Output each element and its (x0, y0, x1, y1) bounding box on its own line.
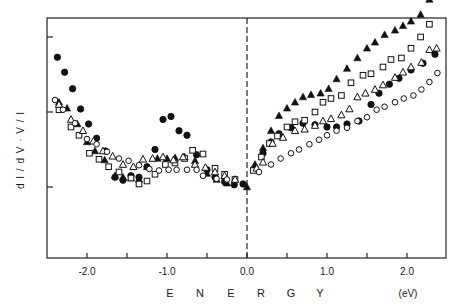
data-point (380, 64, 386, 70)
data-point (283, 104, 290, 111)
data-point (411, 93, 417, 99)
data-point (79, 127, 86, 134)
data-point (426, 0, 433, 2)
data-point (371, 38, 378, 45)
data-point (184, 132, 190, 138)
data-point (60, 107, 66, 113)
data-point (194, 167, 200, 173)
data-point (360, 72, 366, 78)
data-point (418, 34, 424, 40)
x-tick-labels: -2.0 -1.0 0.0 1.0 2.0 (78, 266, 414, 277)
data-point (52, 97, 58, 103)
data-point (427, 21, 433, 27)
data-point (259, 144, 266, 151)
data-point (339, 93, 345, 99)
data-point (324, 132, 330, 138)
data-point (275, 133, 281, 139)
data-point (77, 106, 83, 112)
data-point (144, 178, 150, 184)
data-point (291, 98, 298, 105)
data-point (156, 168, 162, 174)
data-point (433, 44, 440, 51)
data-point (85, 121, 91, 127)
data-point (109, 152, 116, 159)
data-point (392, 99, 398, 105)
data-point (160, 116, 166, 122)
data-point (417, 11, 424, 18)
data-point (302, 117, 308, 123)
data-point (61, 69, 67, 75)
data-point (267, 127, 274, 134)
data-point (72, 120, 78, 126)
x-axis-title: E N E R G Y (eV) (166, 287, 417, 299)
x-title-letter: N (196, 287, 204, 299)
data-point (346, 105, 353, 112)
data-point (288, 150, 294, 156)
data-point (344, 125, 350, 131)
data-point (324, 124, 330, 130)
data-point (96, 156, 102, 162)
data-point (362, 89, 369, 96)
data-point (184, 167, 190, 173)
data-point (312, 109, 318, 115)
scatter-chart: -2.0 -1.0 0.0 1.0 2.0 E N E R G Y (eV) d… (0, 0, 460, 307)
data-point (190, 147, 196, 153)
data-point (407, 63, 414, 70)
data-point (427, 79, 433, 85)
data-point (399, 68, 406, 75)
data-point (268, 162, 274, 168)
data-point (379, 81, 386, 88)
data-point (54, 54, 60, 60)
data-point (152, 146, 158, 152)
data-point (348, 80, 354, 86)
x-tick-label: 1.0 (320, 266, 334, 277)
data-point (368, 101, 374, 107)
data-point (104, 149, 110, 155)
data-point (338, 111, 345, 118)
data-point (168, 113, 174, 119)
data-point (333, 75, 340, 82)
x-title-letter: R (257, 287, 265, 299)
data-point (147, 166, 153, 172)
data-point (386, 81, 392, 87)
x-title-letter: E (166, 287, 173, 299)
y-axis-ticks (47, 37, 53, 187)
data-point (214, 176, 220, 182)
data-point (355, 118, 361, 124)
data-point (69, 86, 75, 92)
data-point (278, 156, 284, 162)
data-point (116, 169, 122, 175)
data-point (381, 31, 388, 38)
data-point (256, 169, 262, 175)
data-point (320, 99, 326, 105)
data-point (128, 175, 134, 181)
data-point (401, 96, 407, 102)
data-point (166, 167, 172, 173)
data-point (176, 128, 182, 134)
data-point (399, 55, 405, 61)
data-point (139, 155, 146, 162)
data-point (391, 26, 398, 33)
data-point (371, 86, 378, 93)
data-point (343, 65, 350, 72)
data-point (316, 137, 322, 143)
series-open-squares (56, 21, 432, 186)
data-point (200, 151, 206, 157)
data-point (284, 124, 290, 130)
data-point (106, 164, 112, 170)
data-point (354, 54, 361, 61)
data-point (374, 107, 380, 113)
data-point (419, 87, 425, 93)
x-tick-label: -2.0 (78, 266, 96, 277)
y-axis-title: d I / d V · V / I (15, 111, 26, 189)
data-point (382, 104, 388, 110)
data-point (159, 153, 166, 160)
data-point (388, 57, 394, 63)
x-tick-label: 0.0 (240, 266, 254, 277)
data-point (364, 114, 370, 120)
data-point (408, 45, 414, 51)
data-point (224, 177, 230, 183)
data-point (174, 167, 180, 173)
data-point (334, 128, 340, 134)
x-tick-label: 2.0 (400, 266, 414, 277)
